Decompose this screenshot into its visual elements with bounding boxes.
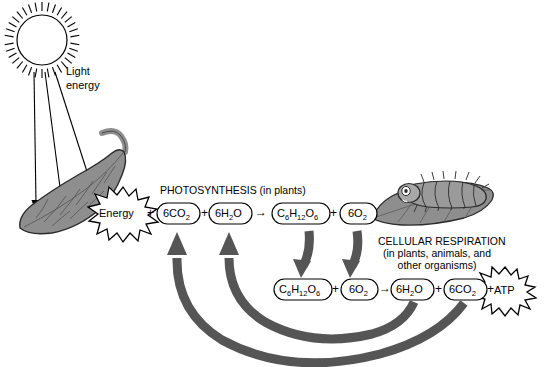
respiration-plus-2: +: [435, 282, 442, 296]
photosynthesis-product-o2: 6O2: [348, 207, 367, 222]
respiration-title-line3: other organisms): [398, 259, 477, 271]
respiration-product-co2: 6CO2: [449, 283, 476, 298]
photosynthesis-plus-1: +: [147, 206, 154, 220]
flow-arrow-down-glucose: [293, 231, 311, 278]
respiration-title-line1: CELLULAR RESPIRATION: [378, 235, 506, 247]
formula-oval-group-photosynthesis: [157, 203, 377, 224]
respiration-product-h2o: 6H2O: [396, 283, 423, 298]
photosynthesis-reactant-h2o: 6H2O: [215, 207, 242, 222]
photosynthesis-product-glucose: C6H12O6: [277, 207, 318, 222]
light-energy-label: Light energy: [66, 65, 100, 93]
light-energy-label-line2: energy: [66, 79, 100, 91]
respiration-plus-1: +: [332, 282, 339, 296]
photosynthesis-title: PHOTOSYNTHESIS (in plants): [160, 185, 306, 197]
photosynthesis-plus-3: +: [330, 206, 337, 220]
respiration-plus-3: +: [487, 282, 494, 296]
energy-burst-label: Energy: [99, 207, 134, 219]
light-energy-arrow-1: [32, 72, 41, 213]
respiration-yields-arrow: →: [379, 281, 391, 295]
photosynthesis-reactant-co2: 6CO2: [163, 207, 190, 222]
cellular-respiration-title: CELLULAR RESPIRATION (in plants, animals…: [378, 236, 496, 271]
flow-arrow-down-oxygen: [342, 231, 360, 278]
photosynthesis-yields-arrow: →: [255, 205, 267, 219]
respiration-reactant-glucose: C6H12O6: [279, 283, 320, 298]
diagram-canvas: Light energy PHOTOSYNTHESIS (in plants) …: [0, 0, 547, 367]
light-energy-label-line1: Light: [66, 65, 90, 77]
photosynthesis-plus-2: +: [201, 206, 208, 220]
respiration-title-line2: (in plants, animals, and: [383, 247, 491, 259]
respiration-reactant-o2: 6O2: [349, 283, 368, 298]
atp-burst-label: ATP: [494, 284, 515, 296]
